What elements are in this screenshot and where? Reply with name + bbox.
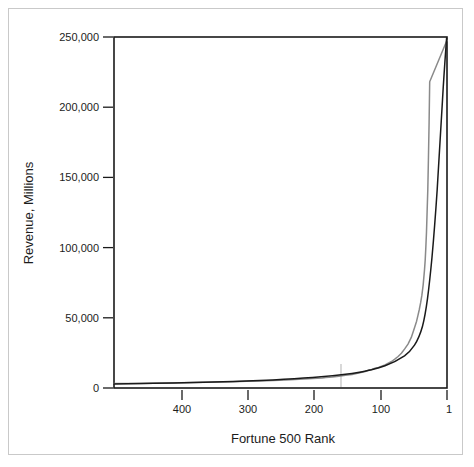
x-tick-label-100: 100 — [372, 403, 390, 415]
x-tick-label-400: 400 — [173, 403, 191, 415]
y-tick-label-250000: 250,000 — [59, 31, 99, 43]
y-tick-label-100000: 100,000 — [59, 242, 99, 254]
y-axis-ticks — [103, 37, 113, 388]
y-tick-label-150000: 150,000 — [59, 171, 99, 183]
y-axis-title: Revenue, Millions — [21, 161, 36, 264]
y-tick-label-0: 0 — [93, 382, 99, 394]
x-axis-title: Fortune 500 Rank — [231, 431, 336, 446]
x-axis-ticks — [182, 390, 447, 400]
x-tick-label-200: 200 — [305, 403, 323, 415]
fortune-500-revenue-chart: 0 50,000 100,000 150,000 200,000 250,000… — [0, 0, 474, 467]
y-tick-label-50000: 50,000 — [65, 312, 99, 324]
x-tick-label-1: 1 — [446, 403, 452, 415]
y-tick-label-200000: 200,000 — [59, 101, 99, 113]
x-tick-label-300: 300 — [239, 403, 257, 415]
y-axis-tick-labels: 0 50,000 100,000 150,000 200,000 250,000 — [59, 31, 99, 394]
plot-frame — [114, 37, 447, 388]
chart-figure: 0 50,000 100,000 150,000 200,000 250,000… — [0, 0, 474, 467]
x-axis-tick-labels: 400 300 200 100 1 — [173, 403, 452, 415]
